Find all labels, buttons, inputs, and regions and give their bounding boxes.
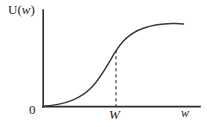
utility-function-figure: U(w) 0 W w xyxy=(0,0,207,127)
y-axis-label: U(w) xyxy=(8,3,35,16)
y-axis-label-suffix: ) xyxy=(30,2,34,17)
origin-label: 0 xyxy=(29,103,36,116)
y-axis-label-prefix: U( xyxy=(8,2,22,17)
x-axis-label: w xyxy=(181,107,189,119)
utility-curve xyxy=(44,24,184,107)
x-tick-label-W: W xyxy=(109,108,120,121)
